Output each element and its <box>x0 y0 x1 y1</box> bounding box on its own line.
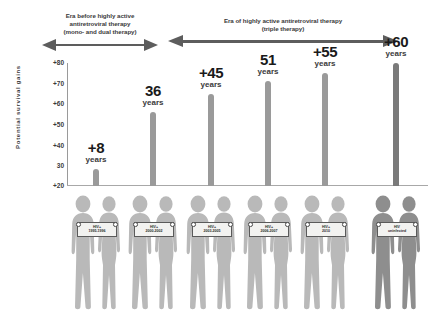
person-silhouette-icon <box>128 195 152 311</box>
sign-hook-left-icon <box>133 222 138 227</box>
bar-2010-sign-line2: 2010 <box>307 229 345 234</box>
bar-1995-1996-sign-line2: 1995-1996 <box>78 229 116 234</box>
bar-2000-2002-sign-line2: 2000-2002 <box>135 229 173 234</box>
person-silhouette-icon <box>397 195 421 311</box>
bar-2003-2005-figure-male <box>186 195 210 311</box>
bar-2000-2002-figure-female <box>154 195 178 311</box>
person-silhouette-icon <box>300 195 324 311</box>
bar-2006-2007-sign: HIV+2006-2007 <box>249 222 289 237</box>
bar-2010-figure-pair: HIV+2010 <box>298 195 352 311</box>
bar-2010-figure-female <box>326 195 350 311</box>
bar-1995-1996-value-number: +8 <box>61 140 131 155</box>
bar-uninfected-figure-male <box>371 195 395 311</box>
bar-1995-1996-figure-pair: HIV+1995-1996 <box>69 195 123 311</box>
bar-1995-1996-value-unit: years <box>61 155 131 164</box>
bar-1995-1996-value-label: +8years <box>61 140 131 164</box>
sign-hook-right-icon <box>228 222 233 227</box>
person-silhouette-icon <box>154 195 178 311</box>
sign-hook-right-icon <box>113 222 118 227</box>
bar-2003-2005 <box>208 94 214 186</box>
bar-1995-1996-figure-male <box>71 195 95 311</box>
bar-2003-2005-value-unit: years <box>176 80 246 89</box>
bar-uninfected <box>393 63 399 186</box>
bar-uninfected-sign: HIVuninfected <box>377 222 417 237</box>
person-silhouette-icon <box>243 195 267 311</box>
bar-2010-value-label: +55years <box>290 44 360 68</box>
plot-area: +8yearsHIV+1995-199636yearsHIV+2000-2002… <box>0 0 438 317</box>
person-silhouette-icon <box>186 195 210 311</box>
bar-2003-2005-figure-pair: HIV+2003-2005 <box>184 195 238 311</box>
bar-1995-1996-figure-female <box>97 195 121 311</box>
sign-hook-right-icon <box>170 222 175 227</box>
person-silhouette-icon <box>269 195 293 311</box>
sign-hook-right-icon <box>342 222 347 227</box>
sign-hook-right-icon <box>413 222 418 227</box>
person-silhouette-icon <box>371 195 395 311</box>
bar-2000-2002-figure-male <box>128 195 152 311</box>
bar-2003-2005-sign-line2: 2003-2005 <box>193 229 231 234</box>
sign-hook-left-icon <box>248 222 253 227</box>
bar-2003-2005-figure-female <box>212 195 236 311</box>
sign-hook-left-icon <box>376 222 381 227</box>
bar-2000-2002 <box>150 112 156 186</box>
bar-2010-figure-male <box>300 195 324 311</box>
bar-uninfected-value-number: +60 <box>361 34 431 49</box>
bar-2006-2007-figure-pair: HIV+2006-2007 <box>241 195 295 311</box>
bar-2000-2002-value-unit: years <box>118 98 188 107</box>
bar-2006-2007-value-unit: years <box>233 67 303 76</box>
bar-2006-2007-sign-line2: 2006-2007 <box>250 229 288 234</box>
bar-uninfected-figure-female <box>397 195 421 311</box>
bar-2003-2005-sign: HIV+2003-2005 <box>192 222 232 237</box>
bar-2006-2007 <box>265 81 271 185</box>
bar-2010-sign: HIV+2010 <box>306 222 346 237</box>
person-silhouette-icon <box>71 195 95 311</box>
bar-uninfected-figure-pair: HIVuninfected <box>369 195 423 311</box>
bar-1995-1996 <box>93 169 99 185</box>
bar-uninfected-value-unit: years <box>361 49 431 58</box>
bar-2006-2007-figure-male <box>243 195 267 311</box>
sign-hook-right-icon <box>285 222 290 227</box>
bar-2000-2002-figure-pair: HIV+2000-2002 <box>126 195 180 311</box>
bar-2010 <box>322 73 328 185</box>
bar-2000-2002-sign: HIV+2000-2002 <box>134 222 174 237</box>
person-silhouette-icon <box>326 195 350 311</box>
bar-2006-2007-figure-female <box>269 195 293 311</box>
person-silhouette-icon <box>212 195 236 311</box>
person-silhouette-icon <box>97 195 121 311</box>
sign-hook-left-icon <box>76 222 81 227</box>
bar-2010-value-unit: years <box>290 59 360 68</box>
infographic-canvas: Era before highly active antiretroviral … <box>0 0 438 317</box>
bar-2010-value-number: +55 <box>290 44 360 59</box>
sign-hook-left-icon <box>191 222 196 227</box>
bar-uninfected-sign-line2: uninfected <box>378 229 416 234</box>
bar-1995-1996-sign: HIV+1995-1996 <box>77 222 117 237</box>
bar-uninfected-value-label: +60years <box>361 34 431 58</box>
sign-hook-left-icon <box>305 222 310 227</box>
